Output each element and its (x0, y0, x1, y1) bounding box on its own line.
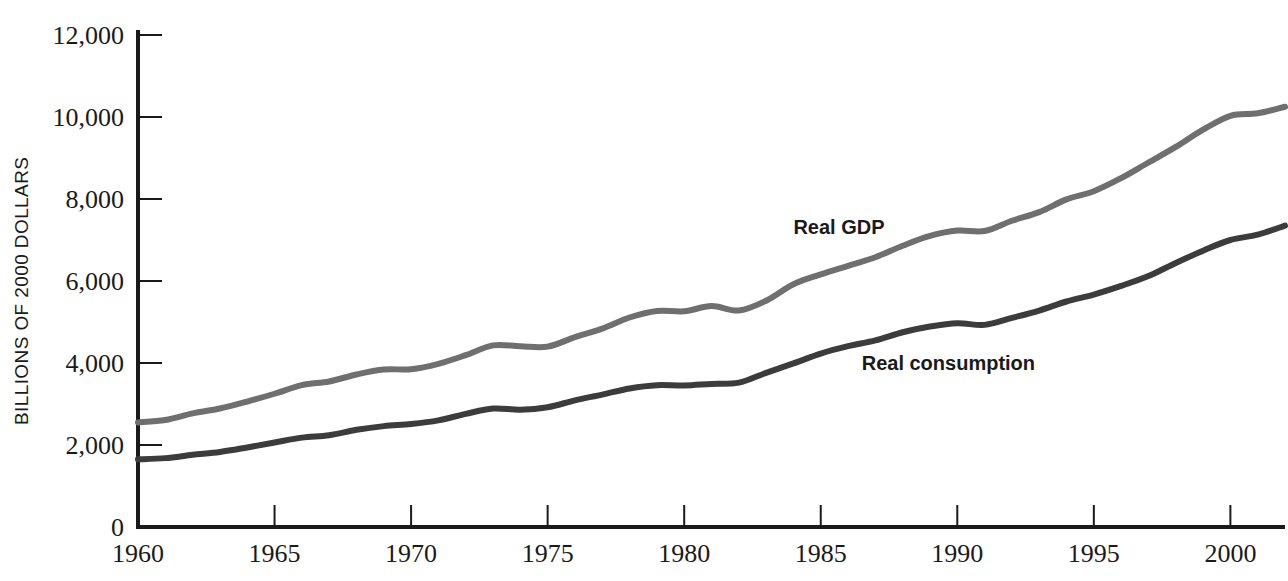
series-label-1: Real GDP (793, 216, 884, 238)
y-tick-label: 10,000 (53, 103, 125, 132)
y-tick-label: 4,000 (66, 349, 125, 378)
x-tick-label: 1960 (112, 539, 164, 568)
series-line-1 (138, 107, 1285, 423)
x-tick-mark-group (275, 505, 1231, 527)
line-chart: BILLIONS OF 2000 DOLLARS 02,0004,0006,00… (0, 0, 1288, 581)
y-tick-label-group: 02,0004,0006,0008,00010,00012,000 (53, 21, 125, 542)
series-label-2: Real consumption (862, 352, 1035, 374)
x-tick-label: 1980 (658, 539, 710, 568)
x-tick-label: 1995 (1068, 539, 1120, 568)
x-tick-label: 2000 (1204, 539, 1256, 568)
y-tick-mark-group (138, 35, 162, 445)
y-tick-label: 8,000 (66, 185, 125, 214)
y-tick-label: 0 (111, 513, 124, 542)
x-tick-label: 1975 (522, 539, 574, 568)
x-tick-label: 1965 (249, 539, 301, 568)
y-tick-label: 12,000 (53, 21, 125, 50)
y-axis-title-label: BILLIONS OF 2000 DOLLARS (11, 157, 32, 425)
axis-lines (138, 30, 1285, 527)
x-tick-label-group: 196019651970197519801985199019952000 (112, 539, 1256, 568)
x-tick-label: 1985 (795, 539, 847, 568)
x-tick-label: 1970 (385, 539, 437, 568)
x-tick-label: 1990 (931, 539, 983, 568)
chart-container: BILLIONS OF 2000 DOLLARS 02,0004,0006,00… (0, 0, 1288, 581)
series-line-2 (138, 226, 1285, 460)
y-axis-title: BILLIONS OF 2000 DOLLARS (11, 157, 32, 425)
series-line-group (138, 107, 1285, 460)
y-tick-label: 6,000 (66, 267, 125, 296)
y-tick-label: 2,000 (66, 431, 125, 460)
